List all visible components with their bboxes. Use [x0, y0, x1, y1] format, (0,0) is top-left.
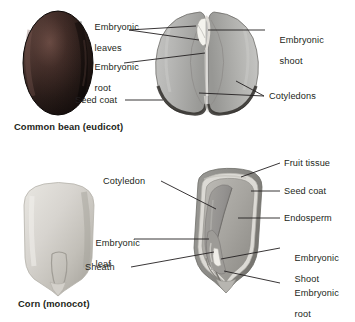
- label-corn-embryonic-leaf-line1: Embryonic: [96, 238, 140, 248]
- label-bean-embryonic-leaves-line1: Embryonic: [95, 22, 139, 32]
- label-bean-embryonic-root-line1: Embryonic: [95, 62, 139, 72]
- whole-corn-kernel: [24, 183, 94, 297]
- seed-structure-figure: Embryonic leaves Embryonic root Seed coa…: [0, 0, 355, 322]
- corn-kernel-section: [194, 168, 262, 293]
- label-corn-embryonic-root-line1: Embryonic: [295, 288, 339, 298]
- label-corn-embryonic-root: Embryonic root: [284, 278, 339, 322]
- label-corn-sheath: Sheath: [85, 262, 115, 272]
- split-bean-right-cotyledon: [208, 12, 258, 114]
- label-bean-embryonic-root-line2: root: [95, 83, 111, 93]
- label-corn-embryonic-shoot-line1: Embryonic: [295, 253, 339, 263]
- label-corn-seed-coat: Seed coat: [284, 186, 326, 196]
- label-bean-embryonic-shoot-line2: shoot: [280, 56, 303, 66]
- caption-common-bean: Common bean (eudicot): [14, 121, 123, 132]
- label-bean-cotyledons: Cotyledons: [269, 91, 316, 101]
- label-corn-endosperm: Endosperm: [284, 213, 332, 223]
- caption-corn: Corn (monocot): [18, 298, 90, 309]
- label-bean-embryonic-shoot-line1: Embryonic: [280, 35, 324, 45]
- label-corn-fruit-tissue: Fruit tissue: [284, 158, 330, 168]
- label-corn-embryonic-root-line2: root: [295, 309, 311, 319]
- label-corn-cotyledon: Cotyledon: [103, 176, 145, 186]
- label-bean-embryonic-shoot: Embryonic shoot: [269, 25, 324, 77]
- label-bean-seed-coat: Seed coat: [75, 95, 117, 105]
